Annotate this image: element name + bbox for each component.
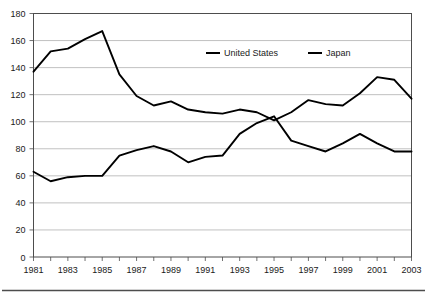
x-tick-label: 1999 bbox=[333, 265, 353, 275]
x-tick-label: 1981 bbox=[23, 265, 43, 275]
y-tick-label: 20 bbox=[15, 225, 25, 235]
legend-label-united-states: United States bbox=[224, 48, 279, 58]
legend-label-japan: Japan bbox=[326, 48, 351, 58]
chart-background bbox=[0, 0, 427, 296]
x-tick-label: 2001 bbox=[367, 265, 387, 275]
x-tick-label: 1991 bbox=[195, 265, 215, 275]
y-tick-label: 100 bbox=[10, 117, 25, 127]
y-tick-label: 0 bbox=[20, 253, 25, 263]
y-tick-label: 40 bbox=[15, 198, 25, 208]
line-chart-figure: 020406080100120140160180 198119831985198… bbox=[0, 0, 427, 296]
x-tick-label: 1997 bbox=[298, 265, 318, 275]
y-tick-label: 120 bbox=[10, 90, 25, 100]
y-tick-label: 60 bbox=[15, 171, 25, 181]
x-tick-label: 1993 bbox=[230, 265, 250, 275]
y-tick-label: 80 bbox=[15, 144, 25, 154]
x-tick-label: 1987 bbox=[127, 265, 147, 275]
x-tick-label: 2003 bbox=[401, 265, 421, 275]
chart-canvas: 020406080100120140160180 198119831985198… bbox=[0, 0, 427, 296]
x-tick-label: 1989 bbox=[161, 265, 181, 275]
x-tick-label: 1983 bbox=[58, 265, 78, 275]
y-tick-label: 180 bbox=[10, 9, 25, 19]
y-tick-label: 160 bbox=[10, 36, 25, 46]
x-tick-label: 1985 bbox=[92, 265, 112, 275]
y-tick-label: 140 bbox=[10, 63, 25, 73]
x-tick-label: 1995 bbox=[264, 265, 284, 275]
